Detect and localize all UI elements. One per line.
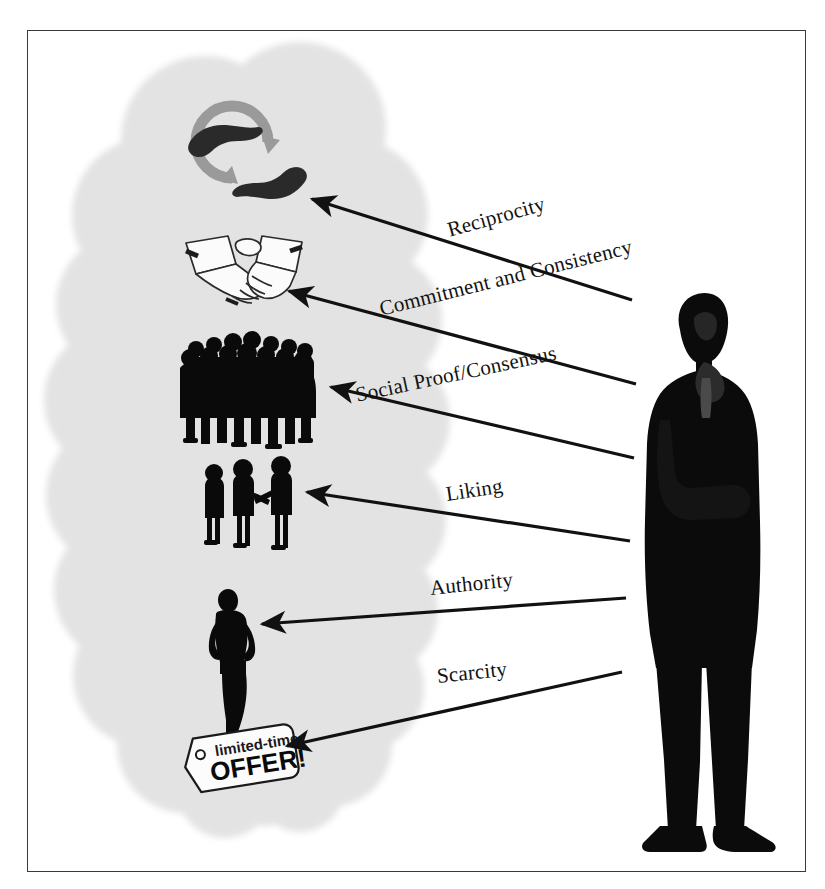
diagram-page: limited-time OFFER! [0, 0, 825, 889]
businessman-silhouette [642, 293, 776, 852]
thought-cloud [44, 42, 450, 838]
three-people-icon [204, 456, 292, 550]
diagram-canvas: limited-time OFFER! [0, 0, 825, 889]
